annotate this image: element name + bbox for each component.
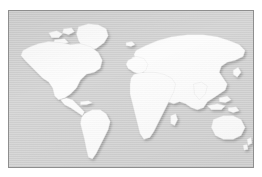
world-map-canvas[interactable] <box>9 11 253 167</box>
australia-shape <box>211 116 245 140</box>
map-figure <box>0 0 262 177</box>
world-map-frame[interactable] <box>8 10 254 168</box>
new-zealand-shape <box>243 144 248 150</box>
